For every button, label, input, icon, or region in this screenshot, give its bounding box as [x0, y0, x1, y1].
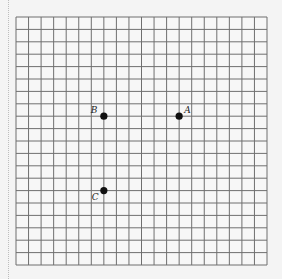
point-label-b: B [91, 106, 98, 115]
point-c [100, 187, 107, 194]
point-label-c: C [92, 193, 99, 202]
point-b [100, 113, 107, 120]
coordinate-grid [0, 0, 282, 279]
point-a [176, 113, 183, 120]
point-label-a: A [184, 106, 191, 115]
